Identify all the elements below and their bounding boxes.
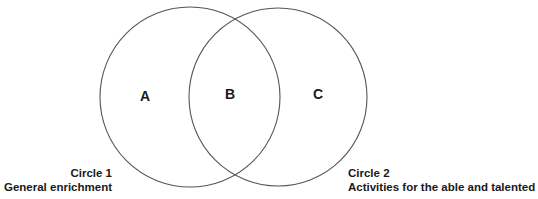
region-a-label: A (140, 88, 150, 104)
circle-1-outline (100, 7, 280, 187)
circle-1-subtitle: General enrichment (4, 180, 112, 194)
region-c-label: C (313, 86, 323, 102)
circle-1-title: Circle 1 (4, 166, 112, 180)
circle-2-subtitle: Activities for the able and talented (348, 180, 535, 194)
circle-2-caption: Circle 2 Activities for the able and tal… (348, 166, 535, 194)
circle-1-caption: Circle 1 General enrichment (4, 166, 112, 194)
circle-2-title: Circle 2 (348, 166, 535, 180)
region-b-label: B (225, 86, 235, 102)
circle-2-outline (189, 8, 367, 186)
